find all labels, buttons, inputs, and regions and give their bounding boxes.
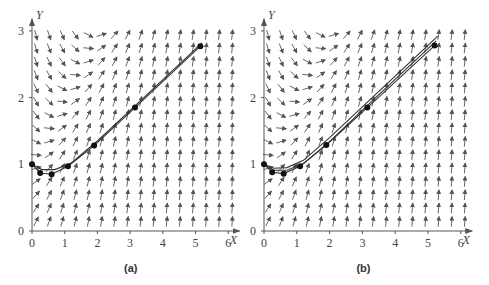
direction-arrow-icon bbox=[346, 177, 348, 187]
direction-arrow-icon bbox=[33, 204, 38, 212]
direction-arrow-icon bbox=[398, 57, 400, 67]
y-axis-label: Y bbox=[268, 8, 276, 22]
direction-arrow-icon bbox=[46, 177, 51, 185]
direction-arrow-icon bbox=[232, 203, 233, 213]
direction-arrow-icon bbox=[359, 190, 360, 200]
direction-arrow-icon bbox=[74, 217, 76, 227]
direction-arrow-icon bbox=[113, 110, 116, 120]
direction-arrow-icon bbox=[317, 85, 324, 92]
direction-arrow-icon bbox=[59, 151, 64, 159]
y-tick-label: 2 bbox=[18, 91, 24, 105]
direction-arrow-icon bbox=[292, 177, 296, 186]
direction-arrow-icon bbox=[372, 137, 374, 147]
euler-point bbox=[261, 161, 267, 167]
figure: XY01234560123(a) XY01234560123(b) bbox=[0, 0, 489, 285]
direction-arrow-icon bbox=[101, 217, 103, 227]
direction-arrow-icon bbox=[412, 203, 413, 213]
direction-arrow-icon bbox=[46, 84, 52, 92]
direction-arrow-icon bbox=[438, 177, 439, 187]
direction-arrow-icon bbox=[179, 43, 181, 53]
direction-arrow-icon bbox=[206, 163, 207, 173]
direction-arrow-icon bbox=[451, 70, 452, 80]
direction-arrow-icon bbox=[113, 84, 116, 93]
direction-arrow-icon bbox=[276, 128, 286, 129]
direction-arrow-icon bbox=[84, 60, 94, 63]
direction-arrow-icon bbox=[304, 111, 311, 118]
direction-arrow-icon bbox=[411, 30, 413, 40]
direction-arrow-icon bbox=[319, 177, 321, 187]
direction-arrow-icon bbox=[232, 70, 233, 80]
direction-arrow-icon bbox=[412, 190, 413, 200]
direction-arrow-icon bbox=[166, 177, 167, 187]
direction-arrow-icon bbox=[333, 190, 335, 200]
direction-arrow-icon bbox=[265, 191, 272, 198]
direction-arrow-icon bbox=[398, 97, 400, 107]
direction-arrow-icon bbox=[192, 30, 194, 40]
direction-arrow-icon bbox=[100, 124, 103, 134]
direction-arrow-icon bbox=[399, 177, 400, 187]
direction-arrow-icon bbox=[372, 70, 374, 80]
direction-arrow-icon bbox=[264, 139, 273, 144]
direction-arrow-icon bbox=[153, 217, 154, 227]
direction-arrow-icon bbox=[60, 190, 63, 199]
direction-arrow-icon bbox=[127, 177, 129, 187]
direction-arrow-icon bbox=[33, 111, 39, 119]
direction-arrow-icon bbox=[140, 123, 142, 133]
panel-caption: (a) bbox=[124, 262, 138, 274]
direction-arrow-icon bbox=[179, 30, 181, 40]
direction-arrow-icon bbox=[332, 110, 335, 119]
direction-arrow-icon bbox=[127, 137, 129, 147]
direction-arrow-icon bbox=[267, 43, 270, 53]
direction-arrow-icon bbox=[205, 97, 206, 107]
direction-arrow-icon bbox=[86, 124, 90, 133]
direction-arrow-icon bbox=[140, 190, 141, 200]
direction-arrow-icon bbox=[58, 86, 67, 91]
direction-arrow-icon bbox=[412, 70, 414, 80]
direction-arrow-icon bbox=[266, 70, 270, 79]
direction-arrow-icon bbox=[412, 83, 413, 93]
direction-arrow-icon bbox=[166, 123, 167, 133]
direction-arrow-icon bbox=[45, 152, 53, 158]
direction-arrow-icon bbox=[278, 84, 284, 92]
direction-arrow-icon bbox=[73, 137, 78, 146]
direction-arrow-icon bbox=[372, 150, 374, 160]
y-tick-label: 3 bbox=[250, 24, 256, 38]
direction-arrow-icon bbox=[192, 70, 193, 80]
direction-arrow-icon bbox=[306, 217, 308, 227]
direction-arrow-icon bbox=[205, 30, 206, 40]
direction-arrow-icon bbox=[179, 163, 180, 173]
direction-arrow-icon bbox=[265, 111, 271, 119]
direction-arrow-icon bbox=[386, 217, 387, 227]
direction-arrow-icon bbox=[399, 217, 400, 227]
direction-arrow-icon bbox=[87, 177, 89, 187]
direction-arrow-icon bbox=[319, 163, 322, 173]
direction-arrow-icon bbox=[166, 203, 167, 213]
direction-arrow-icon bbox=[280, 30, 283, 39]
direction-arrow-icon bbox=[359, 97, 361, 107]
direction-arrow-icon bbox=[101, 203, 103, 213]
direction-arrow-icon bbox=[85, 85, 92, 92]
direction-arrow-icon bbox=[464, 190, 465, 200]
slope-field bbox=[263, 30, 465, 227]
direction-arrow-icon bbox=[385, 43, 387, 53]
direction-arrow-icon bbox=[153, 203, 154, 213]
direction-arrow-icon bbox=[192, 123, 193, 133]
direction-arrow-icon bbox=[291, 138, 298, 145]
direction-arrow-icon bbox=[425, 217, 426, 227]
direction-arrow-icon bbox=[267, 30, 270, 40]
direction-arrow-icon bbox=[372, 123, 374, 133]
direction-arrow-icon bbox=[359, 137, 361, 147]
direction-arrow-icon bbox=[47, 57, 51, 66]
direction-arrow-icon bbox=[398, 30, 400, 40]
direction-arrow-icon bbox=[126, 70, 129, 80]
direction-arrow-icon bbox=[438, 97, 439, 107]
direction-arrow-icon bbox=[32, 179, 40, 185]
direction-arrow-icon bbox=[97, 33, 107, 36]
direction-arrow-icon bbox=[292, 44, 297, 53]
direction-arrow-icon bbox=[166, 97, 168, 107]
direction-arrow-icon bbox=[306, 164, 309, 173]
direction-arrow-icon bbox=[372, 163, 373, 173]
euler-point bbox=[269, 169, 275, 175]
direction-arrow-icon bbox=[438, 83, 439, 93]
direction-arrow-icon bbox=[47, 191, 52, 200]
